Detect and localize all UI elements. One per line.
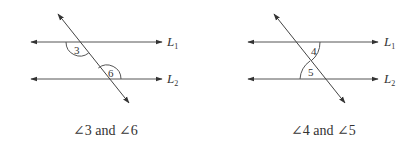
angle-3-label: 3 [74,44,80,56]
angle-6-label: 6 [108,67,114,79]
line-label-l1: L1 [383,34,395,51]
line-label-l1: L1 [166,34,178,51]
caption-right: ∠4 and ∠5 [291,122,356,139]
transversal-line [274,14,345,103]
figure-right: 4 5 L1 L2 [248,14,395,103]
angle-5-label: 5 [308,66,314,78]
line-label-l2: L2 [166,71,178,88]
figure-left: 3 6 L1 L2 [31,14,178,103]
angle-4-label: 4 [311,45,317,57]
transversal-line [58,14,129,103]
caption-left: ∠3 and ∠6 [73,122,138,139]
line-label-l2: L2 [383,71,395,88]
